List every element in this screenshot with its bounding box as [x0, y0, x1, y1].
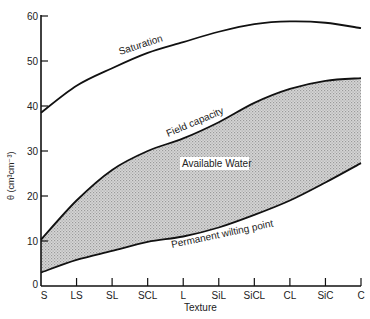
saturation-label: Saturation	[117, 32, 164, 57]
y-tick-label: 10	[27, 236, 39, 247]
y-tick-label: 40	[27, 101, 39, 112]
x-tick-label: S	[41, 290, 48, 301]
y-axis-label: θ (cm³cm⁻³)	[6, 152, 16, 201]
y-tick-label: 30	[27, 146, 39, 157]
x-tick-label: LS	[70, 290, 83, 301]
y-tick-label: 50	[27, 56, 39, 67]
x-tick-label: SL	[106, 290, 119, 301]
x-tick-label: C	[357, 290, 364, 301]
x-tick-label: CL	[283, 290, 296, 301]
soil-water-chart: 0102030405060SLSSLSCLLSiLSiCLCLSiCC Satu…	[0, 0, 370, 319]
y-tick-label: 20	[27, 191, 39, 202]
available-water-label: Available Water	[182, 158, 252, 169]
x-tick-label: SiC	[317, 290, 333, 301]
x-tick-label: SiCL	[243, 290, 265, 301]
y-tick-label: 60	[27, 11, 39, 22]
x-tick-label: L	[180, 290, 186, 301]
x-axis-label: Texture	[184, 302, 217, 313]
y-tick-label: 0	[32, 279, 38, 290]
x-tick-label: SiL	[212, 290, 227, 301]
x-tick-label: SCL	[138, 290, 158, 301]
chart-canvas: 0102030405060SLSSLSCLLSiLSiCLCLSiCC Satu…	[0, 0, 370, 319]
